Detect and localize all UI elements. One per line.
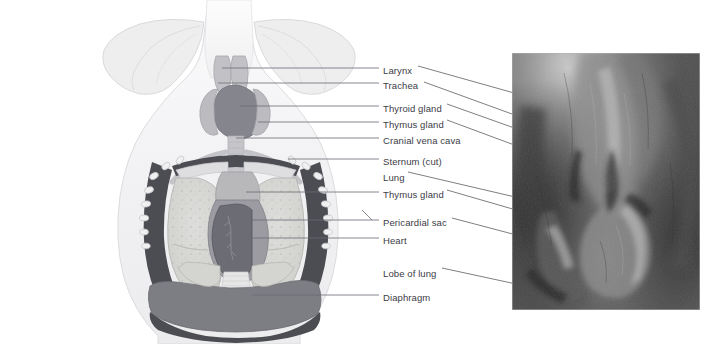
- anatomy-figure: LarynxTracheaThyroid glandThymus glandCr…: [0, 0, 717, 344]
- label-lobe-of-lung: Lobe of lung: [383, 269, 437, 279]
- label-cranial-vena-cava: Cranial vena cava: [383, 136, 461, 146]
- label-diaphragm: Diaphragm: [383, 293, 430, 303]
- label-larynx: Larynx: [383, 66, 412, 76]
- label-thymus-gland-2: Thymus gland: [383, 190, 444, 200]
- label-heart: Heart: [383, 236, 407, 246]
- label-trachea: Trachea: [383, 81, 418, 91]
- label-sternum-cut: Sternum (cut): [383, 157, 442, 167]
- label-layer: LarynxTracheaThyroid glandThymus glandCr…: [0, 0, 717, 344]
- label-lung: Lung: [383, 173, 405, 183]
- label-thyroid-gland: Thyroid gland: [383, 104, 442, 114]
- label-pericardial-sac: Pericardial sac: [383, 218, 447, 228]
- label-thymus-gland-1: Thymus gland: [383, 120, 444, 130]
